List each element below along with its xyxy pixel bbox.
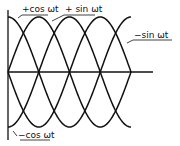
minus-cos-leader bbox=[13, 131, 17, 136]
label-plus-sin: + sin ωt bbox=[65, 4, 103, 14]
minus-sin-leader bbox=[127, 40, 133, 43]
label-plus-cos: +cos ωt bbox=[22, 4, 59, 14]
plus-cos-leader bbox=[18, 15, 22, 18]
label-minus-sin: −sin ωt bbox=[134, 30, 169, 40]
phase-diagram: +cos ωt + sin ωt −sin ωt −cos ωt bbox=[0, 0, 180, 146]
label-minus-cos: −cos ωt bbox=[18, 130, 55, 140]
